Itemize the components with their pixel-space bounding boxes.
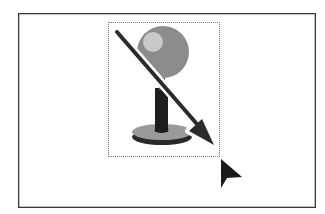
- canvas-artwork: [0, 0, 325, 214]
- mouse-pointer-icon: [218, 157, 246, 191]
